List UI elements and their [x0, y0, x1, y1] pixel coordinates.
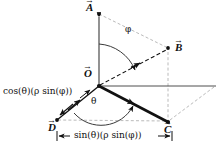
arrow-on-OC: [124, 99, 134, 104]
angle-label-phi: φ: [125, 25, 131, 34]
angle-arc-phi: [99, 44, 135, 70]
dashed-line-C-to-axis: [170, 87, 214, 120]
vector-arrow-icon-B: →: [174, 36, 183, 45]
vector-arrow-icon-D: →: [47, 116, 56, 125]
vector-arrow-icon-O: →: [83, 62, 92, 71]
label-sin-expression: sin(θ)(ρ sin(φ)): [74, 131, 142, 140]
label-cos-expression: cos(θ)(ρ sin(φ)): [3, 87, 72, 96]
point-label-O: →O: [84, 68, 92, 79]
point-label-A: →A: [86, 2, 93, 13]
vector-arrow-icon-A: →: [85, 0, 94, 5]
point-label-B: →B: [175, 42, 182, 53]
point-dot-O: [97, 84, 101, 88]
angle-arc-theta: [74, 106, 133, 125]
vector-arrow-icon-C: →: [163, 118, 172, 127]
arrow-on-OD-up: [68, 100, 80, 110]
dashed-line-D-to-C: [58, 120, 167, 121]
point-label-C: →C: [164, 124, 171, 135]
point-dot-A: [97, 12, 101, 16]
dashed-line-A-to-B: [99, 14, 166, 47]
arrow-on-OD-down: [60, 104, 73, 115]
diagram-canvas: →A →B →O →C →D φ θ cos(θ)(ρ sin(φ)) sin(…: [0, 0, 223, 154]
angle-label-theta: θ: [91, 97, 96, 106]
point-dot-B: [166, 46, 170, 50]
point-label-D: →D: [48, 122, 56, 133]
